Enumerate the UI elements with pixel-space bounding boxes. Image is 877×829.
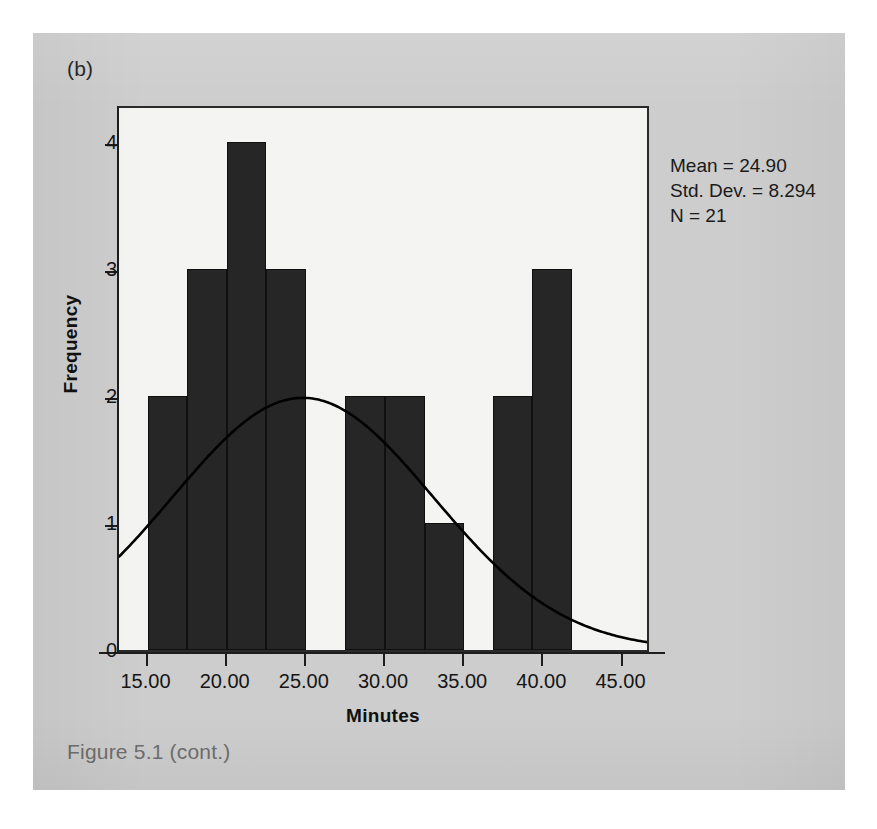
x-axis-tick-label: 30.00 [338, 670, 428, 693]
x-axis-tick-label: 15.00 [101, 670, 191, 693]
statistics-annotation: Mean = 24.90 Std. Dev. = 8.294 N = 21 [670, 153, 816, 228]
x-axis-tick [304, 654, 306, 666]
y-axis-line [117, 106, 119, 654]
y-axis-tick-label: 4 [89, 131, 117, 154]
x-axis-tick [462, 654, 464, 666]
stat-mean: Mean = 24.90 [670, 153, 816, 178]
y-axis-tick-label: 2 [89, 385, 117, 408]
plot-area [117, 106, 649, 652]
x-axis-tick [621, 654, 623, 666]
y-axis-tick-label: 3 [89, 258, 117, 281]
x-axis-tick [383, 654, 385, 666]
figure-card: (b) 01234 15.0020.0025.0030.0035.0040.00… [33, 33, 845, 790]
y-axis-tick-label: 0 [89, 639, 117, 662]
figure-caption: Figure 5.1 (cont.) [67, 740, 231, 764]
stat-std-dev: Std. Dev. = 8.294 [670, 178, 816, 203]
y-axis-title: Frequency [60, 244, 82, 444]
x-axis-tick [225, 654, 227, 666]
x-axis-tick-label: 40.00 [496, 670, 586, 693]
y-axis-tick-label: 1 [89, 512, 117, 535]
x-axis-line [99, 652, 665, 654]
x-axis-title: Minutes [117, 705, 649, 727]
x-axis-tick-label: 45.00 [576, 670, 666, 693]
x-axis-tick [146, 654, 148, 666]
x-axis-tick-label: 35.00 [417, 670, 507, 693]
normal-curve [119, 108, 647, 650]
stat-n: N = 21 [670, 203, 816, 228]
x-axis-tick-label: 20.00 [180, 670, 270, 693]
x-axis-tick-label: 25.00 [259, 670, 349, 693]
histogram-chart: 01234 15.0020.0025.0030.0035.0040.0045.0… [33, 33, 845, 733]
x-axis-tick [541, 654, 543, 666]
